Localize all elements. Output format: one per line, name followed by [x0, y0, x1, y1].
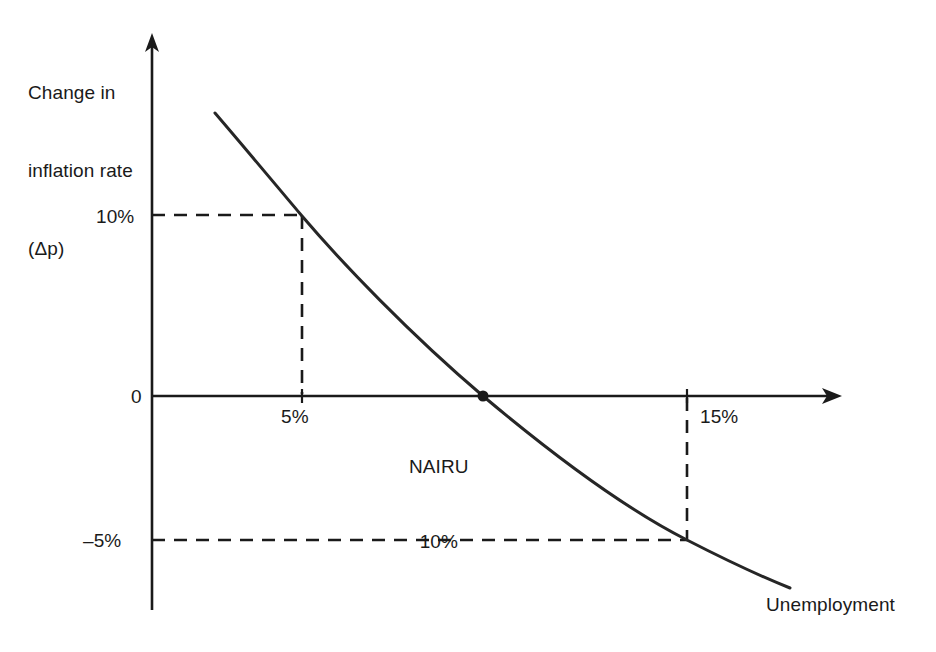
- y-axis: [145, 33, 159, 610]
- y-axis-title: Change in inflation rate (Δp): [28, 28, 133, 314]
- x-axis-title: Unemployment: [766, 592, 895, 617]
- nairu-annotation-value: 10%: [409, 529, 469, 554]
- y-tick-label-10pct: 10%: [96, 204, 134, 229]
- x-tick-label-5pct: 5%: [281, 404, 309, 429]
- y-axis-title-line-3: (Δp): [28, 236, 133, 262]
- y-axis-title-line-2: inflation rate: [28, 158, 133, 184]
- nairu-annotation-title: NAIRU: [409, 454, 469, 479]
- x-axis: [152, 388, 842, 404]
- y-tick-label-0: 0: [131, 384, 142, 409]
- y-axis-title-line-1: Change in: [28, 80, 133, 106]
- x-tick-label-15pct: 15%: [700, 404, 738, 429]
- phillips-curve-figure: Change in inflation rate (Δp) 10% 0 –5% …: [0, 0, 936, 652]
- nairu-annotation: NAIRU 10%: [409, 404, 469, 604]
- nairu-point-marker: [478, 391, 489, 402]
- y-tick-label-neg5pct: –5%: [83, 528, 121, 553]
